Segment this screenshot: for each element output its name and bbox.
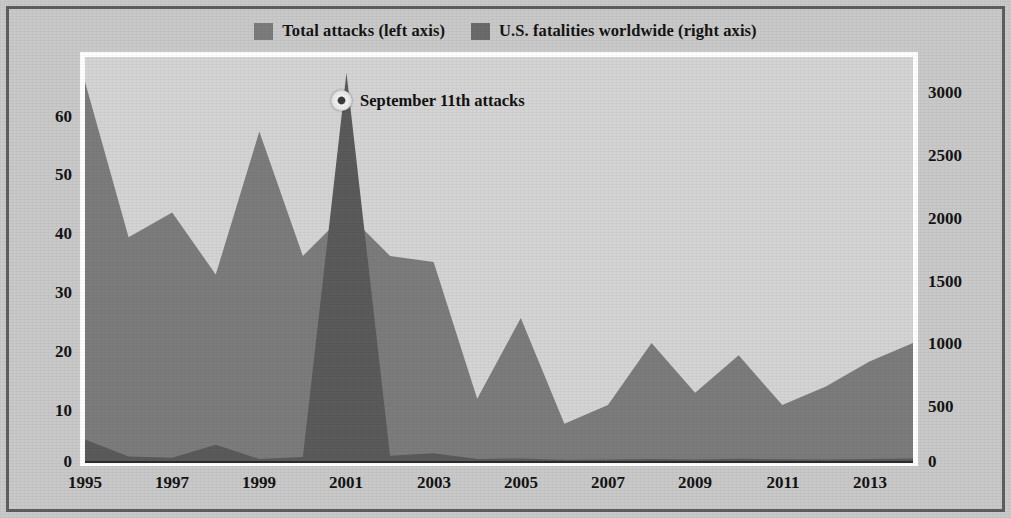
plot-area — [85, 57, 913, 461]
annotation-label: September 11th attacks — [360, 91, 525, 111]
y-axis-right-tick-1000: 1000 — [928, 334, 988, 354]
x-axis-tick-2003: 2003 — [402, 473, 466, 493]
x-axis-tick-1995: 1995 — [53, 473, 117, 493]
y-axis-left-tick-30: 30 — [28, 283, 72, 303]
x-axis-tick-2011: 2011 — [751, 473, 815, 493]
x-axis-tick-2005: 2005 — [489, 473, 553, 493]
chart-legend: Total attacks (left axis) U.S. fatalitie… — [0, 21, 1011, 41]
x-axis-baseline — [85, 461, 913, 463]
legend-item-total-attacks[interactable]: Total attacks (left axis) — [254, 21, 445, 41]
september-11-annotation: September 11th attacks — [331, 90, 525, 111]
legend-label-us-fatalities: U.S. fatalities worldwide (right axis) — [499, 21, 757, 41]
y-axis-right-tick-2000: 2000 — [928, 209, 988, 229]
y-axis-right-tick-0: 0 — [928, 452, 988, 472]
series-area-total-attacks — [85, 82, 913, 461]
x-axis-tick-2001: 2001 — [314, 473, 378, 493]
y-axis-right-tick-3000: 3000 — [928, 83, 988, 103]
x-axis-tick-2009: 2009 — [663, 473, 727, 493]
legend-swatch-fatalities-icon — [471, 23, 490, 40]
legend-label-total-attacks: Total attacks (left axis) — [282, 21, 445, 41]
x-axis-tick-2013: 2013 — [838, 473, 902, 493]
x-axis-tick-1997: 1997 — [140, 473, 204, 493]
x-axis-tick-1999: 1999 — [227, 473, 291, 493]
terrorism-attacks-chart-figure: Total attacks (left axis) U.S. fatalitie… — [0, 0, 1011, 518]
y-axis-left-tick-0: 0 — [28, 452, 72, 472]
circle-marker-icon — [331, 90, 352, 111]
y-axis-right-tick-500: 500 — [928, 397, 988, 417]
area-chart-svg — [85, 57, 913, 461]
y-axis-left-tick-40: 40 — [28, 224, 72, 244]
y-axis-left-tick-50: 50 — [28, 165, 72, 185]
y-axis-right-tick-2500: 2500 — [928, 146, 988, 166]
legend-swatch-attacks-icon — [254, 23, 273, 40]
y-axis-left-tick-20: 20 — [28, 342, 72, 362]
y-axis-left-tick-10: 10 — [28, 401, 72, 421]
x-axis-tick-2007: 2007 — [576, 473, 640, 493]
y-axis-left-tick-60: 60 — [28, 107, 72, 127]
legend-item-us-fatalities[interactable]: U.S. fatalities worldwide (right axis) — [471, 21, 757, 41]
y-axis-right-tick-1500: 1500 — [928, 272, 988, 292]
